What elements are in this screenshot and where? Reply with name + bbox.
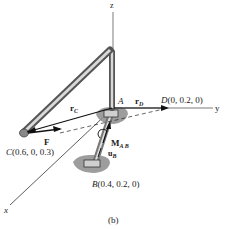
bearing-a <box>104 110 118 117</box>
pipe-end-c <box>20 129 29 137</box>
mab-label: MA B <box>111 139 129 149</box>
point-c-label: C(0.6, 0, 0.3) <box>6 148 54 157</box>
point-a-label: A <box>118 97 124 106</box>
f-label: F <box>44 138 50 147</box>
y-axis-label: y <box>215 104 220 113</box>
rc-label: rC <box>70 104 78 114</box>
point-d-label: D(0, 0.2, 0) <box>161 96 203 105</box>
ub-label: uB <box>108 150 116 159</box>
rd-label: rD <box>135 97 143 107</box>
mechanics-diagram <box>0 0 227 229</box>
point-b-label: B(0.4, 0.2, 0) <box>92 180 140 189</box>
z-axis-label: z <box>110 2 114 10</box>
figure-caption: (b) <box>108 216 119 225</box>
bearing-b <box>84 160 100 167</box>
x-axis-label: x <box>4 206 8 215</box>
